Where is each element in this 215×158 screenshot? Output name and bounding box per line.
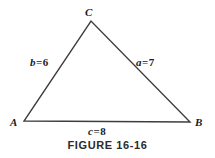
- vertex-label-c: C: [85, 7, 92, 18]
- side-label-b: b=6: [30, 57, 48, 68]
- side-a-equals: =: [142, 56, 148, 68]
- vertex-label-b: B: [195, 117, 202, 128]
- side-label-c: c=8: [88, 126, 106, 137]
- figure-container: C A B b=6 a=7 c=8 FIGURE 16-16: [0, 0, 215, 158]
- side-b-equals: =: [36, 56, 42, 68]
- side-label-a: a=7: [136, 57, 154, 68]
- side-b-variable: b: [30, 56, 36, 68]
- triangle-diagram: [0, 0, 215, 158]
- side-a-value: 7: [149, 56, 155, 68]
- side-c-value: 8: [100, 125, 106, 137]
- side-b-value: 6: [43, 56, 49, 68]
- triangle-shape: [24, 21, 190, 122]
- side-c-equals: =: [93, 125, 99, 137]
- side-a-variable: a: [136, 56, 142, 68]
- vertex-label-a: A: [10, 117, 17, 128]
- figure-caption: FIGURE 16-16: [0, 139, 215, 151]
